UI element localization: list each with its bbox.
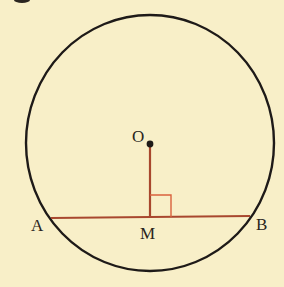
- right-angle-marker: [150, 195, 171, 217]
- label-m: M: [140, 224, 155, 243]
- label-a: A: [31, 216, 44, 235]
- label-o: O: [132, 127, 144, 146]
- circle-diagram: O A M B: [0, 0, 284, 287]
- label-b: B: [256, 215, 267, 234]
- cropped-glyph: [14, 0, 30, 3]
- center-point-o: [147, 141, 154, 148]
